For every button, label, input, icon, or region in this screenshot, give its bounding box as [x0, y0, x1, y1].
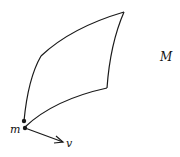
vector-v-arrow-shaft: [25, 128, 63, 142]
label-point-m: m: [10, 123, 20, 136]
curve-right-edge: [107, 12, 124, 88]
label-vector-v: v: [66, 137, 72, 150]
point-dot-upper: [22, 119, 26, 123]
label-manifold-M: M: [160, 50, 172, 64]
curve-top-edge: [41, 12, 124, 56]
diagram-canvas: [0, 0, 180, 157]
curve-left-edge: [24, 56, 41, 121]
curve-bottom-edge: [25, 88, 107, 127]
